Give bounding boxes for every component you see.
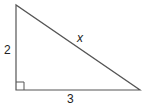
triangle-figure [0, 0, 145, 106]
horizontal-leg-label: 3 [67, 93, 74, 105]
hypotenuse-label: x [77, 32, 83, 44]
vertical-leg-label: 2 [4, 44, 11, 56]
right-angle-marker [16, 82, 24, 90]
right-triangle [16, 5, 140, 90]
